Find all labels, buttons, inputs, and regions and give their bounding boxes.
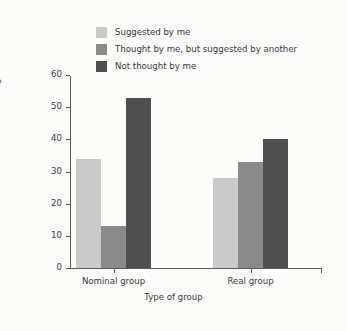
legend-item-not-thought-by-me: Not thought by me [96, 60, 297, 73]
x-axis-title: Type of group [0, 292, 347, 302]
y-axis-tick-label: 10 [51, 230, 62, 240]
y-axis-line [70, 76, 71, 269]
y-axis-tick-label: 50 [51, 101, 62, 111]
y-axis-tick: 60 [66, 75, 70, 76]
y-axis-title: Percentage of ideas [0, 37, 1, 122]
y-axis-tick-label: 40 [51, 133, 62, 143]
x-axis-tick [321, 269, 322, 273]
x-axis-tick [114, 269, 115, 273]
legend-swatch-icon [96, 44, 107, 55]
legend-item-thought-by-me-suggested-by-another: Thought by me, but suggested by another [96, 43, 297, 56]
legend-label: Suggested by me [115, 27, 190, 38]
y-axis-tick: 0 [66, 268, 70, 269]
chart-legend: Suggested by me Thought by me, but sugge… [96, 26, 297, 73]
y-axis-tick-label: 30 [51, 166, 62, 176]
x-axis-line [70, 268, 322, 269]
y-axis-tick: 30 [66, 172, 70, 173]
bar [238, 162, 263, 268]
legend-label: Not thought by me [115, 61, 196, 72]
legend-item-suggested-by-me: Suggested by me [96, 26, 297, 39]
legend-label: Thought by me, but suggested by another [115, 44, 297, 55]
x-axis-category-label: Nominal group [82, 276, 145, 286]
y-axis-tick: 10 [66, 236, 70, 237]
bar [263, 139, 288, 268]
y-axis-tick: 40 [66, 139, 70, 140]
x-axis-category-label: Real group [227, 276, 273, 286]
legend-swatch-icon [96, 61, 107, 72]
y-axis-tick: 20 [66, 204, 70, 205]
bar [76, 159, 101, 268]
bar [213, 178, 238, 268]
legend-swatch-icon [96, 27, 107, 38]
bar [126, 98, 151, 268]
y-axis-tick: 50 [66, 107, 70, 108]
plot-area: 0102030405060 [70, 76, 322, 269]
x-axis-tick [251, 269, 252, 273]
bar-chart-figure: Suggested by me Thought by me, but sugge… [0, 0, 347, 331]
y-axis-tick-label: 0 [57, 262, 62, 272]
bar [101, 226, 126, 268]
y-axis-tick-label: 60 [51, 69, 62, 79]
y-axis-tick-label: 20 [51, 198, 62, 208]
